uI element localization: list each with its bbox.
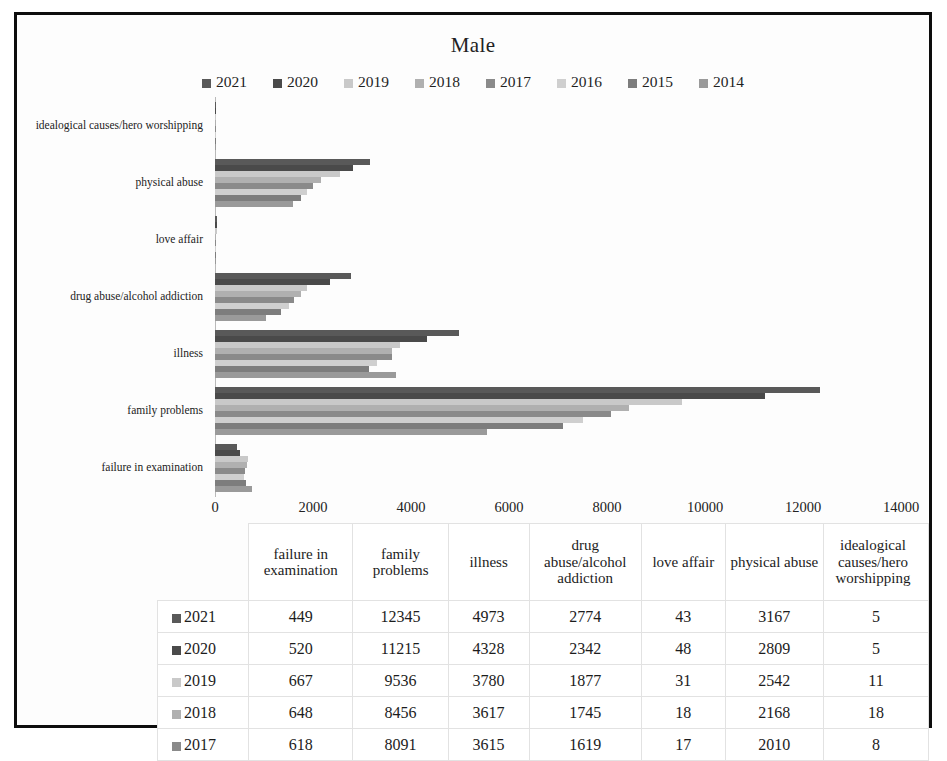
- category-label: drug abuse/alcohol addiction: [70, 290, 203, 303]
- x-tick-label: 14000: [883, 499, 919, 516]
- table-column-header: idealogical causes/hero worshipping: [823, 524, 928, 601]
- table-cell: 667: [249, 665, 353, 697]
- table-column-header: drug abuse/alcohol addiction: [529, 524, 641, 601]
- legend-swatch-icon: [202, 79, 211, 88]
- legend-label: 2017: [500, 73, 531, 91]
- table-row: 20176188091361516191720108: [158, 729, 929, 761]
- bar-group: [215, 330, 901, 378]
- legend-label: 2020: [287, 73, 318, 91]
- plot-area: [215, 97, 901, 497]
- series-swatch-icon: [172, 646, 181, 655]
- bar-group: [215, 216, 901, 264]
- legend-swatch-icon: [273, 79, 282, 88]
- legend-label: 2016: [571, 73, 602, 91]
- table-cell: 48: [641, 633, 725, 665]
- x-tick-label: 12000: [785, 499, 821, 516]
- category-label: love affair: [156, 233, 203, 246]
- table-column-header: illness: [448, 524, 529, 601]
- chart-area: Male 20212020201920182017201620152014 id…: [17, 15, 929, 725]
- legend-swatch-icon: [557, 79, 566, 88]
- legend-item-2019[interactable]: 2019: [344, 73, 389, 91]
- x-tick-label: 4000: [397, 499, 426, 516]
- legend-swatch-icon: [699, 79, 708, 88]
- x-tick-label: 8000: [593, 499, 622, 516]
- table-row-label: 2019: [184, 672, 216, 689]
- bar-2014[interactable]: [215, 201, 293, 207]
- bar-group: [215, 102, 901, 150]
- series-swatch-icon: [172, 710, 181, 719]
- category-axis-labels: idealogical causes/hero worshippingphysi…: [17, 97, 209, 497]
- table-cell: 11215: [353, 633, 448, 665]
- table-cell: 5: [823, 601, 928, 633]
- x-tick-label: 0: [211, 499, 218, 516]
- bar-2014[interactable]: [215, 258, 216, 264]
- table-column-header: physical abuse: [725, 524, 823, 601]
- legend-label: 2018: [429, 73, 460, 91]
- table-row-label: 2018: [184, 704, 216, 721]
- legend-item-2015[interactable]: 2015: [628, 73, 673, 91]
- legend-swatch-icon: [415, 79, 424, 88]
- table-cell: 11: [823, 665, 928, 697]
- bar-2014[interactable]: [215, 372, 396, 378]
- x-tick-label: 10000: [687, 499, 723, 516]
- legend-label: 2014: [713, 73, 744, 91]
- table-cell: 4973: [448, 601, 529, 633]
- table-row-header: 2018: [158, 697, 249, 729]
- legend-label: 2021: [216, 73, 247, 91]
- legend-swatch-icon: [344, 79, 353, 88]
- bar-group: [215, 444, 901, 492]
- table-column-header-label: failure in examination: [252, 546, 349, 579]
- table-corner-cell: [158, 524, 249, 601]
- table-cell: 3780: [448, 665, 529, 697]
- legend-item-2018[interactable]: 2018: [415, 73, 460, 91]
- table-column-header-label: family problems: [356, 546, 444, 579]
- data-table-body: 2021449123454973277443316752020520112154…: [158, 601, 929, 761]
- category-label: family problems: [127, 404, 203, 417]
- bar-group: [215, 387, 901, 435]
- table-cell: 12345: [353, 601, 448, 633]
- table-row-header: 2017: [158, 729, 249, 761]
- x-tick-label: 2000: [299, 499, 328, 516]
- table-cell: 5: [823, 633, 928, 665]
- legend-label: 2015: [642, 73, 673, 91]
- table-cell: 17: [641, 729, 725, 761]
- legend-item-2016[interactable]: 2016: [557, 73, 602, 91]
- table-cell: 520: [249, 633, 353, 665]
- bar-2014[interactable]: [215, 486, 252, 492]
- bar-2014[interactable]: [215, 144, 216, 150]
- table-row: 202144912345497327744331675: [158, 601, 929, 633]
- table-cell: 1745: [529, 697, 641, 729]
- table-cell: 618: [249, 729, 353, 761]
- series-swatch-icon: [172, 614, 181, 623]
- bar-group: [215, 273, 901, 321]
- value-axis-labels: 02000400060008000100001200014000: [215, 497, 901, 523]
- table-column-header: family problems: [353, 524, 448, 601]
- legend-swatch-icon: [628, 79, 637, 88]
- table-column-header-label: idealogical causes/hero worshipping: [821, 537, 925, 587]
- table-column-header-label: love affair: [645, 554, 722, 571]
- table-row: 201966795363780187731254211: [158, 665, 929, 697]
- table-row-header: 2019: [158, 665, 249, 697]
- legend-item-2020[interactable]: 2020: [273, 73, 318, 91]
- table-cell: 1877: [529, 665, 641, 697]
- table-cell: 18: [641, 697, 725, 729]
- table-cell: 2809: [725, 633, 823, 665]
- table-cell: 43: [641, 601, 725, 633]
- legend-item-2017[interactable]: 2017: [486, 73, 531, 91]
- legend-item-2021[interactable]: 2021: [202, 73, 247, 91]
- legend-item-2014[interactable]: 2014: [699, 73, 744, 91]
- table-cell: 2774: [529, 601, 641, 633]
- table-row: 201864884563617174518216818: [158, 697, 929, 729]
- table-row-header: 2020: [158, 633, 249, 665]
- table-cell: 1619: [529, 729, 641, 761]
- category-label: illness: [174, 347, 203, 360]
- table-column-header: love affair: [641, 524, 725, 601]
- data-table-head: failure in examinationfamily problemsill…: [158, 524, 929, 601]
- category-label: failure in examination: [101, 461, 203, 474]
- bar-2014[interactable]: [215, 315, 266, 321]
- table-column-header: failure in examination: [249, 524, 353, 601]
- bar-2014[interactable]: [215, 429, 487, 435]
- table-cell: 3615: [448, 729, 529, 761]
- legend-swatch-icon: [486, 79, 495, 88]
- x-tick-label: 6000: [495, 499, 524, 516]
